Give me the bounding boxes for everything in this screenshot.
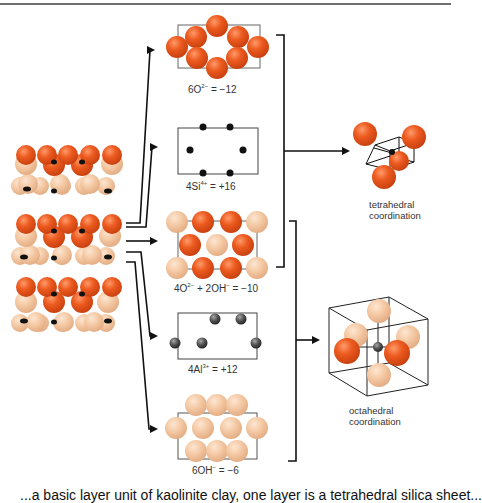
mixed-layer-panel <box>166 211 268 279</box>
hydroxyl-layer-charge-label: 6OH− = −6 <box>192 464 239 476</box>
tetrahedral-coordination-label: tetrahedral coordination <box>369 199 421 221</box>
mixed-layer-charge-label: 4O2− + 2OH− = −10 <box>174 282 258 294</box>
brackets <box>276 35 348 461</box>
aluminum-layer-panel <box>170 313 262 359</box>
hydroxyl-layer-panel <box>165 394 268 462</box>
layered-structure-stack <box>11 145 123 332</box>
oxygen-layer-charge-label: 6O2− = −12 <box>188 83 237 95</box>
tetrahedral-unit <box>353 122 426 189</box>
octahedral-coordination-label: octahedral coordination <box>349 405 401 427</box>
oxygen-layer-panel <box>166 15 269 79</box>
aluminum-layer-charge-label: 4Al3+ = +12 <box>188 363 238 375</box>
silicon-layer-charge-label: 4Si4+ = +16 <box>186 180 236 192</box>
caption-text-partial: ...a basic layer unit of kaolinite clay,… <box>20 487 482 503</box>
octahedral-unit <box>329 297 428 396</box>
layer-arrows <box>126 50 156 429</box>
silicon-layer-panel <box>178 124 258 177</box>
